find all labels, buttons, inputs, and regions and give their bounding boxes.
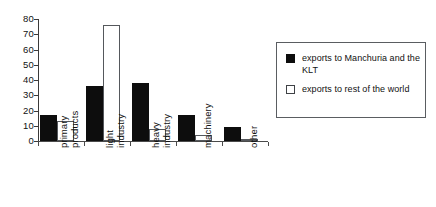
x-axis-tick-mark <box>130 142 131 146</box>
y-axis-tick-label: 10 <box>10 121 34 131</box>
x-axis-category-label-text: heavyindustry <box>151 114 172 148</box>
x-axis-category-label-line: products <box>70 111 81 148</box>
legend-item-rest-of-world: exports to rest of the world <box>286 84 420 96</box>
x-axis-category-label-text: other <box>249 126 260 148</box>
y-axis-tick-label: 70 <box>10 29 34 39</box>
x-axis-category-label-line: light <box>105 114 116 148</box>
x-axis-category-label-line: industry <box>116 114 127 148</box>
bar-manchuria <box>132 83 149 141</box>
legend-swatch-dark-icon <box>286 54 295 63</box>
x-axis-tick-mark <box>268 142 269 146</box>
x-axis-category-label-line: heavy <box>151 114 162 148</box>
x-axis-tick-mark <box>176 142 177 146</box>
y-axis-tick-label: 30 <box>10 90 34 100</box>
bar-manchuria <box>178 115 195 141</box>
x-axis-category-label-text: lightindustry <box>105 114 126 148</box>
x-axis-category-label-line: other <box>249 126 260 148</box>
chart-legend: exports to Manchuria and the KLT exports… <box>276 42 426 118</box>
y-axis-tick-label: 40 <box>10 75 34 85</box>
legend-label: exports to rest of the world <box>302 84 409 96</box>
y-axis-tick-label: 50 <box>10 60 34 70</box>
x-axis-tick-mark <box>38 142 39 146</box>
y-axis-tick-label: 60 <box>10 45 34 55</box>
y-axis-tick-label: 80 <box>10 14 34 24</box>
bar-manchuria <box>40 115 57 141</box>
y-axis-tick-labels: 01020304050607080 <box>10 12 34 148</box>
plot-area: 01020304050607080 primaryproductslightin… <box>0 0 270 207</box>
y-axis-tick-label: 0 <box>10 136 34 146</box>
x-axis-category-label-line: machinery <box>203 103 214 148</box>
x-axis-category-label-text: primaryproducts <box>59 111 80 148</box>
x-axis-category-label-line: primary <box>59 111 70 148</box>
bar-manchuria <box>86 86 103 141</box>
x-axis-tick-mark <box>84 142 85 146</box>
legend-label: exports to Manchuria and the KLT <box>302 53 420 76</box>
y-axis-tick-label: 20 <box>10 106 34 116</box>
legend-item-manchuria: exports to Manchuria and the KLT <box>286 53 420 76</box>
bar-manchuria <box>224 127 241 141</box>
x-axis-category-label-line: industry <box>162 114 173 148</box>
bar-chart-figure: 01020304050607080 primaryproductslightin… <box>0 0 436 207</box>
x-axis-tick-mark <box>222 142 223 146</box>
x-axis-category-label-text: machinery <box>203 103 214 148</box>
legend-swatch-light-icon <box>286 85 295 94</box>
